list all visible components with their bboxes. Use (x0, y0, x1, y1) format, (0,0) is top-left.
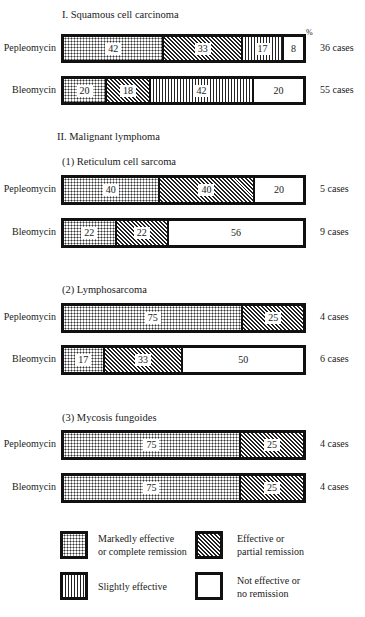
segment-none: 20 (254, 79, 303, 102)
value-label: 42 (194, 85, 210, 97)
subsection-title-lymphosarcoma: (2) Lymphosarcoma (62, 284, 147, 295)
value-label: 40 (103, 184, 119, 196)
stacked-bar-squamous-bleomycin: 20 18 42 20 (61, 76, 306, 105)
legend-line: Not effective or (237, 575, 300, 588)
case-count: 9 cases (320, 226, 349, 237)
value-label: 33 (135, 354, 151, 366)
case-count: 4 cases (320, 438, 349, 449)
segment-effective: 22 (117, 221, 170, 245)
legend-swatch-effective (195, 531, 223, 559)
value-label: 18 (120, 85, 136, 97)
value-label: 20 (270, 85, 286, 97)
value-label: 17 (75, 354, 91, 366)
value-label: 17 (255, 43, 271, 55)
legend-line: partial remission (237, 546, 304, 559)
segment-effective: 33 (105, 348, 184, 372)
segment-effective: 40 (160, 178, 256, 202)
legend-label-effective: Effective or partial remission (237, 533, 304, 558)
segment-effective: 25 (241, 433, 303, 457)
stacked-bar-reticulum-pepleomycin: 40 40 20 (61, 175, 306, 205)
legend-label-slight: Slightly effective (98, 581, 167, 594)
value-label: 75 (143, 482, 159, 494)
drug-label: Bleomycin (0, 84, 56, 95)
drug-label: Pepleomycin (0, 183, 56, 194)
segment-effective: 25 (243, 306, 303, 330)
value-label: 42 (105, 43, 121, 55)
stacked-bar-mycosis-pepleomycin: 75 25 (61, 430, 306, 460)
legend-swatch-marked (60, 531, 88, 559)
value-label: 8 (288, 43, 299, 55)
segment-marked: 22 (64, 221, 117, 245)
legend-line: no remission (237, 588, 300, 601)
segment-marked: 20 (64, 79, 107, 102)
case-count: 55 cases (320, 84, 354, 95)
legend-line: Effective or (237, 533, 304, 546)
drug-label: Pepleomycin (0, 42, 56, 53)
value-label: 40 (198, 184, 214, 196)
case-count: 4 cases (320, 311, 349, 322)
segment-marked: 17 (64, 348, 105, 372)
segment-marked: 40 (64, 178, 160, 202)
drug-label: Pepleomycin (0, 311, 56, 322)
legend-swatch-none (195, 572, 223, 600)
drug-label: Bleomycin (0, 226, 56, 237)
value-label: 75 (145, 312, 161, 324)
value-label: 22 (81, 227, 97, 239)
segment-slight: 42 (151, 79, 254, 102)
section-title-squamous: I. Squamous cell carcinoma (62, 9, 179, 20)
segment-none: 50 (183, 348, 303, 372)
value-label: 22 (134, 227, 150, 239)
value-label: 56 (228, 227, 244, 239)
segment-slight: 17 (243, 37, 284, 60)
value-label: 20 (271, 184, 287, 196)
stacked-bar-mycosis-bleomycin: 75 25 (61, 473, 306, 503)
legend-line: or complete remission (98, 546, 187, 559)
value-label: 75 (143, 439, 159, 451)
legend-line: Markedly effective (98, 533, 187, 546)
segment-effective: 18 (107, 79, 151, 102)
segment-marked: 75 (64, 476, 241, 500)
drug-label: Bleomycin (0, 481, 56, 492)
section-title-lymphoma: II. Malignant lymphoma (57, 131, 160, 142)
stacked-bar-lymphosarcoma-pepleomycin: 75 25 (61, 303, 306, 333)
segment-effective: 33 (164, 37, 243, 60)
stacked-bar-reticulum-bleomycin: 22 22 56 (61, 218, 306, 248)
stacked-bar-squamous-pepleomycin: 42 33 17 8 (61, 34, 306, 63)
case-count: 6 cases (320, 353, 349, 364)
legend-swatch-slight (60, 572, 88, 600)
drug-label: Bleomycin (0, 353, 56, 364)
value-label: 25 (264, 482, 280, 494)
subsection-title-reticulum: (1) Reticulum cell sarcoma (62, 156, 176, 167)
drug-label: Pepleomycin (0, 438, 56, 449)
value-label: 25 (264, 439, 280, 451)
percent-unit-label: % (306, 28, 313, 37)
segment-none: 8 (284, 37, 303, 60)
value-label: 20 (77, 85, 93, 97)
segment-marked: 75 (64, 306, 243, 330)
case-count: 5 cases (320, 183, 349, 194)
legend-label-none: Not effective or no remission (237, 575, 300, 600)
case-count: 36 cases (320, 42, 354, 53)
segment-effective: 25 (241, 476, 303, 500)
legend-label-marked: Markedly effective or complete remission (98, 533, 187, 558)
value-label: 25 (265, 312, 281, 324)
segment-marked: 75 (64, 433, 241, 457)
subsection-title-mycosis: (3) Mycosis fungoides (62, 412, 157, 423)
value-label: 33 (195, 43, 211, 55)
stacked-bar-lymphosarcoma-bleomycin: 17 33 50 (61, 345, 306, 375)
case-count: 4 cases (320, 481, 349, 492)
value-label: 50 (235, 354, 251, 366)
segment-none: 20 (255, 178, 303, 202)
segment-none: 56 (169, 221, 303, 245)
segment-marked: 42 (64, 37, 164, 60)
